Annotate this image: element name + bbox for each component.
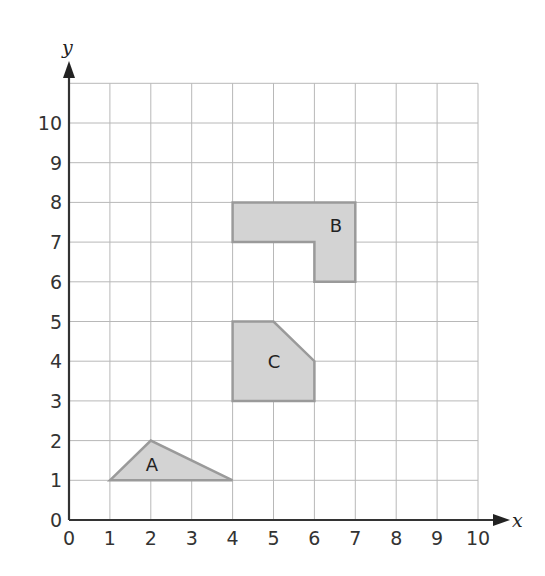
x-tick-label: 9 (431, 527, 443, 549)
shape-a (110, 441, 233, 481)
y-tick-label: 3 (50, 390, 62, 412)
y-tick-label: 0 (50, 509, 62, 531)
coordinate-grid: x y 012345678910012345678910 A B C (0, 0, 545, 576)
x-tick-label: 3 (186, 527, 198, 549)
y-tick-label: 1 (50, 469, 62, 491)
x-tick-label: 7 (349, 527, 361, 549)
y-tick-label: 7 (50, 231, 62, 253)
axes: x y (61, 36, 523, 531)
shape-b-label: B (330, 215, 342, 236)
y-tick-label: 6 (50, 271, 62, 293)
y-tick-label: 5 (50, 311, 62, 333)
shape-a-label: A (146, 454, 159, 475)
x-tick-label: 4 (227, 527, 239, 549)
x-tick-label: 2 (145, 527, 157, 549)
x-axis-label: x (512, 509, 523, 531)
x-tick-label: 8 (390, 527, 402, 549)
x-tick-label: 10 (466, 527, 490, 549)
grid-lines (69, 83, 478, 520)
y-tick-label: 10 (38, 112, 62, 134)
y-tick-label: 2 (50, 430, 62, 452)
x-tick-label: 6 (308, 527, 320, 549)
y-tick-label: 9 (50, 152, 62, 174)
x-tick-label: 0 (63, 527, 75, 549)
y-axis-arrow-icon (63, 61, 75, 78)
y-axis-label: y (61, 36, 73, 58)
shape-c-label: C (268, 351, 281, 372)
x-axis-arrow-icon (493, 514, 510, 526)
x-tick-label: 1 (104, 527, 116, 549)
y-tick-label: 4 (50, 350, 62, 372)
y-tick-label: 8 (50, 191, 62, 213)
x-tick-label: 5 (267, 527, 279, 549)
